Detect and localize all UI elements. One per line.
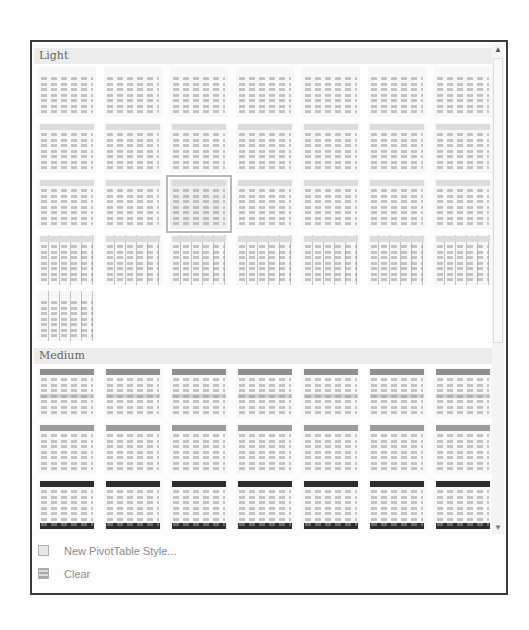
style-thumbnail[interactable] bbox=[302, 123, 360, 173]
style-thumbnail[interactable] bbox=[236, 123, 294, 173]
style-thumbnail[interactable] bbox=[368, 67, 426, 117]
style-thumbnail[interactable] bbox=[170, 67, 228, 117]
style-thumbnail[interactable] bbox=[170, 424, 228, 474]
style-thumbnail[interactable] bbox=[170, 480, 228, 530]
style-thumbnail[interactable] bbox=[104, 235, 162, 285]
style-thumbnail[interactable] bbox=[368, 179, 426, 229]
style-thumbnail[interactable] bbox=[38, 235, 96, 285]
style-thumbnail[interactable] bbox=[368, 424, 426, 474]
pivottable-styles-gallery: Light Medium ▲ ▼ New PivotTable Style...… bbox=[30, 40, 508, 595]
clear-label: Clear bbox=[64, 564, 90, 584]
section-header-medium: Medium bbox=[34, 348, 494, 364]
style-thumbnail[interactable] bbox=[302, 480, 360, 530]
style-thumbnail[interactable] bbox=[368, 235, 426, 285]
style-thumbnail[interactable] bbox=[104, 424, 162, 474]
style-thumbnail[interactable] bbox=[236, 235, 294, 285]
style-thumbnail[interactable] bbox=[38, 368, 96, 418]
style-thumbnail[interactable] bbox=[236, 368, 294, 418]
style-thumbnail[interactable] bbox=[38, 179, 96, 229]
style-thumbnail[interactable] bbox=[302, 179, 360, 229]
clear-button[interactable]: Clear bbox=[36, 564, 336, 584]
style-thumbnail[interactable] bbox=[236, 179, 294, 229]
style-thumbnail[interactable] bbox=[38, 480, 96, 530]
style-thumbnail[interactable] bbox=[302, 368, 360, 418]
style-thumbnail[interactable] bbox=[434, 480, 492, 530]
style-thumbnail[interactable] bbox=[302, 235, 360, 285]
style-thumbnail[interactable] bbox=[368, 368, 426, 418]
style-thumbnail[interactable] bbox=[434, 67, 492, 117]
gallery-scrollbar[interactable]: ▲ ▼ bbox=[492, 44, 504, 534]
style-thumbnail[interactable] bbox=[38, 291, 96, 341]
style-thumbnail[interactable] bbox=[368, 123, 426, 173]
style-thumbnail[interactable] bbox=[170, 235, 228, 285]
style-thumbnail[interactable] bbox=[38, 67, 96, 117]
style-thumbnail[interactable] bbox=[104, 480, 162, 530]
style-thumbnail[interactable] bbox=[434, 235, 492, 285]
style-thumbnail[interactable] bbox=[38, 123, 96, 173]
style-thumbnail[interactable] bbox=[434, 368, 492, 418]
style-thumbnail[interactable] bbox=[104, 67, 162, 117]
clear-icon bbox=[38, 568, 49, 579]
new-style-icon bbox=[38, 545, 49, 556]
style-thumbnail[interactable] bbox=[236, 424, 294, 474]
style-thumbnail[interactable] bbox=[104, 179, 162, 229]
style-thumbnail[interactable] bbox=[104, 368, 162, 418]
style-thumbnail[interactable] bbox=[236, 480, 294, 530]
style-thumbnail[interactable] bbox=[170, 179, 228, 229]
style-thumbnail[interactable] bbox=[368, 480, 426, 530]
style-thumbnail[interactable] bbox=[302, 67, 360, 117]
scroll-up-icon[interactable]: ▲ bbox=[492, 44, 504, 56]
new-pivottable-style-label: New PivotTable Style... bbox=[64, 541, 177, 561]
scroll-down-icon[interactable]: ▼ bbox=[492, 522, 504, 534]
style-thumbnail[interactable] bbox=[170, 368, 228, 418]
new-pivottable-style-button[interactable]: New PivotTable Style... bbox=[36, 541, 336, 561]
style-thumbnail[interactable] bbox=[236, 67, 294, 117]
scroll-thumb[interactable] bbox=[493, 58, 503, 343]
style-thumbnail[interactable] bbox=[104, 123, 162, 173]
style-thumbnail[interactable] bbox=[434, 123, 492, 173]
style-thumbnail[interactable] bbox=[434, 424, 492, 474]
style-thumbnail[interactable] bbox=[170, 123, 228, 173]
style-thumbnail[interactable] bbox=[434, 179, 492, 229]
section-header-light: Light bbox=[34, 48, 494, 64]
style-thumbnail[interactable] bbox=[302, 424, 360, 474]
style-thumbnail[interactable] bbox=[38, 424, 96, 474]
